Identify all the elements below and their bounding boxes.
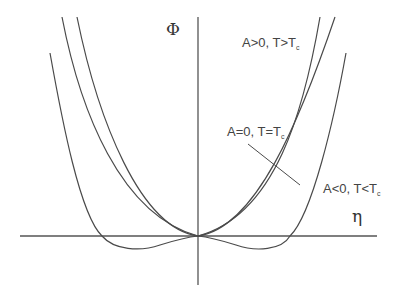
landau-diagram	[0, 0, 397, 301]
label-a-zero: A=0, T=Tc	[227, 125, 284, 140]
label-a-positive-sub: c	[296, 44, 300, 51]
label-a-positive: A>0, T>Tc	[242, 36, 299, 51]
label-a-negative: A<0, T<Tc	[323, 182, 380, 197]
a-zero-leader-line	[248, 144, 300, 185]
label-a-negative-sub: c	[377, 190, 381, 197]
phi-axis-label: Φ	[166, 21, 180, 38]
label-a-positive-text: A>0, T>T	[242, 35, 296, 50]
eta-axis-label: η	[352, 208, 362, 225]
label-a-zero-sub: c	[281, 133, 285, 140]
label-a-negative-text: A<0, T<T	[323, 181, 377, 196]
label-a-zero-text: A=0, T=T	[227, 124, 281, 139]
